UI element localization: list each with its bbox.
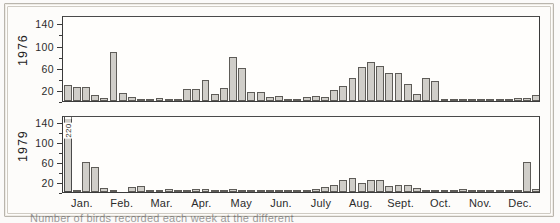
bar bbox=[496, 99, 504, 101]
bar bbox=[73, 190, 81, 192]
bar bbox=[450, 190, 458, 192]
bar bbox=[441, 99, 449, 101]
bar bbox=[174, 190, 182, 192]
year-label-1976: 1976 bbox=[10, 46, 36, 60]
bar bbox=[505, 99, 513, 101]
bar bbox=[247, 190, 255, 192]
bar bbox=[321, 97, 329, 101]
y-axis-tick-label: 100 bbox=[35, 41, 54, 53]
bar bbox=[257, 190, 265, 192]
bar bbox=[312, 189, 320, 192]
x-axis-month-label: July bbox=[311, 197, 331, 209]
bar bbox=[183, 89, 191, 101]
bar bbox=[174, 99, 182, 101]
bar bbox=[303, 190, 311, 192]
x-axis-month-label: Sept. bbox=[387, 197, 414, 209]
y-axis-tick bbox=[57, 91, 62, 92]
bar bbox=[486, 190, 494, 192]
bar bbox=[146, 99, 154, 101]
bar bbox=[238, 190, 246, 192]
bar bbox=[238, 68, 246, 101]
bar bbox=[275, 190, 283, 192]
bar bbox=[293, 190, 301, 192]
bar bbox=[367, 62, 375, 101]
bar bbox=[422, 190, 430, 192]
bar bbox=[312, 96, 320, 101]
bar bbox=[477, 99, 485, 101]
bar bbox=[110, 190, 118, 192]
x-axis-month-label: Aug. bbox=[349, 197, 372, 209]
bar bbox=[395, 73, 403, 101]
bar bbox=[468, 190, 476, 192]
bar bbox=[532, 189, 540, 192]
bar bbox=[330, 90, 338, 101]
y-axis-minor-tick bbox=[59, 173, 62, 174]
bar bbox=[64, 85, 72, 101]
bar bbox=[321, 187, 329, 192]
offscale-bar-cap bbox=[64, 116, 72, 119]
bar bbox=[413, 188, 421, 192]
y-axis-tick-label: 20 bbox=[42, 85, 54, 97]
bar bbox=[202, 80, 210, 101]
bar bbox=[523, 162, 531, 192]
panel-1979: 220 bbox=[62, 116, 540, 193]
bar bbox=[431, 190, 439, 192]
bar bbox=[441, 190, 449, 192]
y-axis-minor-tick bbox=[59, 133, 62, 134]
bar bbox=[349, 78, 357, 101]
offscale-bar: 220 bbox=[64, 116, 72, 192]
bar bbox=[128, 97, 136, 101]
x-axis-month-label: Jun. bbox=[270, 197, 292, 209]
bar bbox=[477, 190, 485, 192]
year-label-1976-text: 1976 bbox=[16, 40, 30, 66]
bar bbox=[358, 183, 366, 192]
bar bbox=[82, 162, 90, 192]
bar bbox=[229, 57, 237, 101]
bar bbox=[496, 190, 504, 192]
y-axis-tick-label: 20 bbox=[42, 177, 54, 189]
bar bbox=[358, 67, 366, 101]
bar bbox=[339, 180, 347, 192]
y-axis-tick-label: 140 bbox=[35, 117, 54, 129]
bar bbox=[532, 95, 540, 101]
bar bbox=[229, 189, 237, 192]
y-axis-tick bbox=[57, 183, 62, 184]
bar bbox=[211, 190, 219, 192]
offscale-bar-value: 220 bbox=[63, 122, 72, 138]
bar bbox=[119, 93, 127, 101]
y-axis-minor-tick bbox=[59, 35, 62, 36]
bar bbox=[91, 167, 99, 192]
bar bbox=[505, 190, 513, 192]
year-label-1979: 1979 bbox=[10, 142, 36, 156]
y-axis-minor-tick bbox=[59, 58, 62, 59]
bar bbox=[100, 98, 108, 101]
bars-1976 bbox=[63, 17, 539, 101]
y-axis-tick-label: 60 bbox=[42, 157, 54, 169]
figure-page: 2060100140 1976 220 2060100140 1979 Jan.… bbox=[0, 0, 560, 223]
y-axis-tick bbox=[57, 47, 62, 48]
bar bbox=[395, 185, 403, 192]
bars-1979: 220 bbox=[63, 117, 539, 192]
bar bbox=[128, 187, 136, 192]
bar bbox=[330, 185, 338, 192]
bar bbox=[486, 99, 494, 101]
bar bbox=[367, 180, 375, 192]
x-axis-month-label: Jan. bbox=[71, 197, 93, 209]
bar bbox=[459, 99, 467, 101]
y-axis-tick bbox=[57, 123, 62, 124]
bar bbox=[404, 185, 412, 192]
bar bbox=[211, 94, 219, 101]
bar bbox=[450, 99, 458, 101]
bar bbox=[220, 88, 228, 101]
bar bbox=[146, 190, 154, 192]
bar bbox=[404, 84, 412, 101]
bar bbox=[422, 78, 430, 101]
bar bbox=[192, 89, 200, 101]
bar bbox=[110, 52, 118, 101]
bar bbox=[293, 99, 301, 101]
x-axis-month-labels: Jan.Feb.Mar.Apr.MayJun.JulyAug.Sept.Oct.… bbox=[62, 195, 540, 211]
panel-1976 bbox=[62, 16, 540, 102]
x-axis-month-label: Feb. bbox=[110, 197, 133, 209]
y-axis-tick-label: 60 bbox=[42, 63, 54, 75]
x-axis-month-label: Nov. bbox=[469, 197, 492, 209]
